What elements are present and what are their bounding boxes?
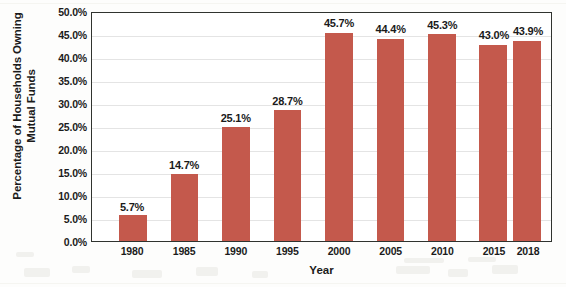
bar: [274, 110, 302, 241]
bar: [428, 34, 456, 241]
y-axis-tick-label: 25.0%: [58, 121, 87, 133]
y-axis-tick-label: 5.0%: [64, 213, 87, 225]
y-axis-tick-labels: 0.0%5.0%10.0%15.0%20.0%25.0%30.0%35.0%40…: [38, 12, 87, 242]
bar: [377, 39, 405, 241]
x-axis-tick-labels: 198019851990199520002005201020152018: [91, 245, 552, 261]
y-axis-tick-label: 0.0%: [64, 236, 87, 248]
y-axis-tick-label: 35.0%: [58, 75, 87, 87]
x-axis-tick-label: 2010: [431, 245, 454, 257]
bar: [222, 127, 250, 241]
x-axis-tick-label: 2018: [517, 245, 540, 257]
bars-layer: [92, 13, 551, 241]
x-axis-tick-label: 1990: [224, 245, 247, 257]
y-axis-title-text: Percentage of Households Owning Mutual F…: [10, 12, 38, 199]
y-axis-tick-label: 20.0%: [58, 144, 87, 156]
x-axis-tick-label: 2000: [328, 245, 351, 257]
y-axis-tick-label: 10.0%: [58, 190, 87, 202]
bar: [479, 45, 507, 241]
plot-area: [91, 12, 552, 242]
y-axis-tick-label: 45.0%: [58, 29, 87, 41]
x-axis-tick-label: 1995: [276, 245, 299, 257]
x-axis-tick-label: 1980: [121, 245, 144, 257]
bar-chart-figure: Percentage of Households Owning Mutual F…: [0, 0, 566, 287]
y-axis-tick-label: 50.0%: [58, 6, 87, 18]
y-axis-tick-label: 15.0%: [58, 167, 87, 179]
x-axis-tick-label: 2015: [483, 245, 506, 257]
x-axis-tick-label: 2005: [379, 245, 402, 257]
bar: [513, 41, 541, 241]
bar: [325, 33, 353, 241]
bar: [119, 215, 147, 241]
y-axis-tick-label: 40.0%: [58, 52, 87, 64]
x-axis-tick-label: 1985: [173, 245, 196, 257]
x-axis-title: Year: [91, 264, 552, 276]
bar: [171, 174, 199, 241]
y-axis-tick-label: 30.0%: [58, 98, 87, 110]
